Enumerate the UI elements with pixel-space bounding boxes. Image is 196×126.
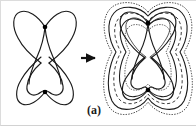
- ribbon-core-left-connector-strand: [131, 58, 148, 90]
- crossing-node-lower: [43, 90, 48, 95]
- figure-root: (a): [0, 0, 196, 126]
- source-curve-diagram: [14, 11, 77, 104]
- thickened-ribbon-diagram: [104, 3, 193, 115]
- ribbon-core-right-connector-strand: [148, 58, 165, 90]
- crossing-node-upper: [43, 25, 48, 30]
- curve-lower-left-lobe: [17, 57, 45, 105]
- curve-upper-right-lobe: [45, 11, 76, 63]
- curve-upper-left-lobe: [14, 11, 45, 63]
- curve-lower-right-lobe: [45, 57, 73, 105]
- ribbon-crossing-node-upper: [146, 21, 151, 26]
- figure-caption: (a): [79, 103, 109, 117]
- ribbon-crossing-node-lower: [146, 88, 151, 93]
- ribbon-inner-dotted-contour: [125, 25, 171, 91]
